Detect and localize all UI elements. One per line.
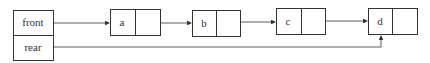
rear-label: rear (24, 41, 41, 53)
linked-queue-diagram: front rear a b c d (0, 0, 430, 63)
rear-pointer-arrow (54, 36, 382, 47)
node-c: c (277, 9, 326, 35)
node-data: d (377, 15, 383, 27)
node-d: d (369, 9, 418, 35)
node-b: b (193, 11, 241, 37)
node-data: b (201, 17, 207, 29)
front-label: front (22, 16, 43, 28)
node-a: a (111, 10, 161, 36)
node-data: a (120, 16, 125, 28)
node-data: c (286, 15, 291, 27)
queue-header: front rear (14, 11, 54, 61)
